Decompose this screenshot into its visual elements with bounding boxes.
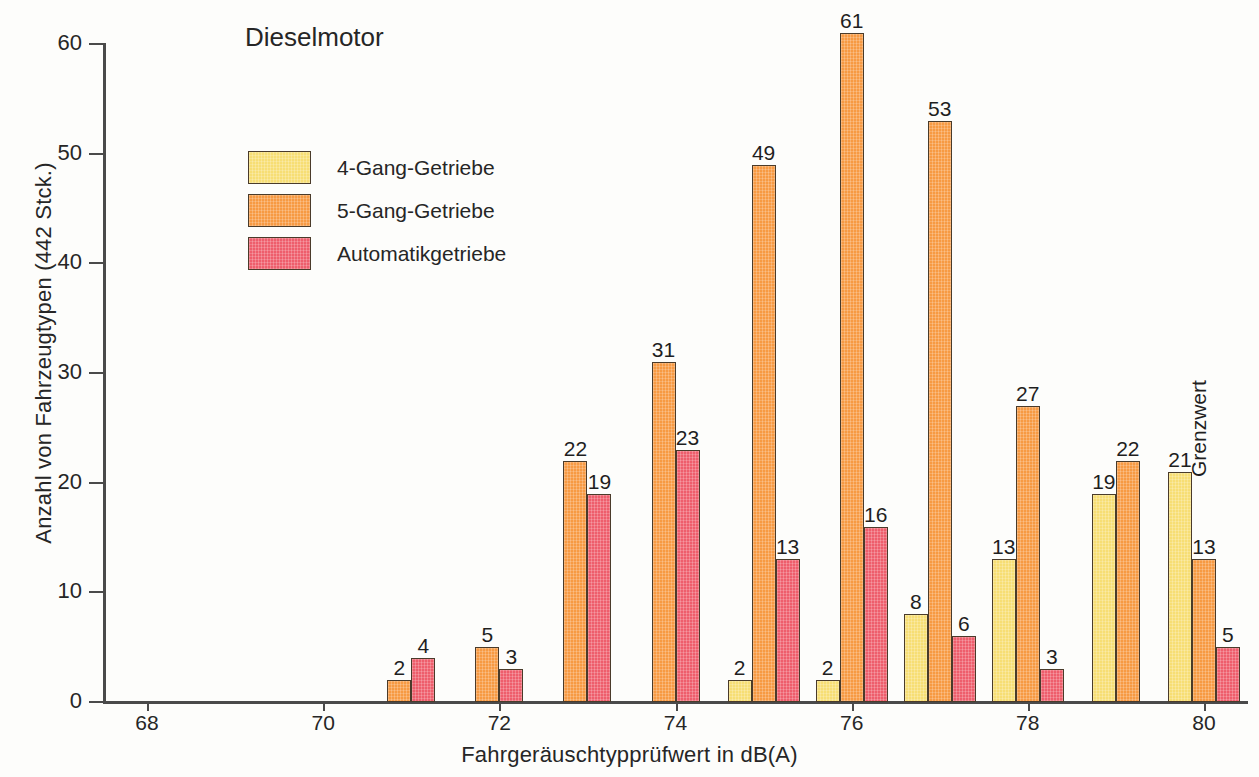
bar: 3 xyxy=(1040,669,1064,702)
bar: 2 xyxy=(387,680,411,702)
bar-value-label: 6 xyxy=(958,613,970,634)
bar: 61 xyxy=(840,33,864,702)
x-tick-label: 70 xyxy=(288,711,358,735)
y-tick: 50 xyxy=(89,153,103,155)
bar-value-label: 3 xyxy=(506,646,518,667)
bar: 8 xyxy=(904,614,928,702)
x-tick xyxy=(1204,701,1206,711)
bar-value-label: 13 xyxy=(776,536,799,557)
bar: 2 xyxy=(816,680,840,702)
bar-value-label: 2 xyxy=(393,657,405,678)
bar: 6 xyxy=(952,636,976,702)
x-tick xyxy=(852,701,854,711)
y-tick-label: 50 xyxy=(58,140,82,166)
bar: 13 xyxy=(992,559,1016,702)
bar: 4 xyxy=(411,658,435,702)
bar-value-label: 23 xyxy=(676,427,699,448)
bar: 22 xyxy=(1116,461,1140,702)
bar: 5 xyxy=(1216,647,1240,702)
x-tick xyxy=(499,701,501,711)
chart-page: Anzahl von Fahrzeugtypen (442 Stck.) Fah… xyxy=(0,0,1259,777)
bar-value-label: 13 xyxy=(992,536,1015,557)
x-tick-label: 78 xyxy=(993,711,1063,735)
x-tick-label: 74 xyxy=(641,711,711,735)
bar: 19 xyxy=(587,494,611,702)
plot-area: 0102030405060 68707274767880 24532219312… xyxy=(103,43,1248,701)
bar: 21 xyxy=(1168,472,1192,702)
bar-value-label: 31 xyxy=(652,339,675,360)
x-tick xyxy=(323,701,325,711)
x-tick-label: 68 xyxy=(112,711,182,735)
y-tick-label: 0 xyxy=(70,688,82,714)
y-tick-label: 30 xyxy=(58,359,82,385)
bar-value-label: 61 xyxy=(840,10,863,31)
bar-value-label: 3 xyxy=(1046,646,1058,667)
y-tick-label: 10 xyxy=(58,578,82,604)
bar: 5 xyxy=(475,647,499,702)
x-tick-label: 72 xyxy=(464,711,534,735)
bar: 19 xyxy=(1092,494,1116,702)
x-tick xyxy=(676,701,678,711)
y-axis-line xyxy=(103,43,106,702)
x-tick-label: 80 xyxy=(1169,711,1239,735)
y-tick-label: 20 xyxy=(58,469,82,495)
bar: 3 xyxy=(499,669,523,702)
bar-value-label: 19 xyxy=(1092,471,1115,492)
y-axis-title: Anzahl von Fahrzeugtypen (442 Stck.) xyxy=(31,93,57,613)
bar-value-label: 2 xyxy=(734,657,746,678)
bar-value-label: 53 xyxy=(928,98,951,119)
x-tick xyxy=(1028,701,1030,711)
x-tick xyxy=(147,701,149,711)
bar-value-label: 49 xyxy=(752,142,775,163)
bar-value-label: 19 xyxy=(588,471,611,492)
y-tick: 60 xyxy=(89,43,103,45)
y-tick: 40 xyxy=(89,262,103,264)
y-tick-label: 60 xyxy=(58,30,82,56)
bar: 53 xyxy=(928,121,952,702)
bar: 13 xyxy=(776,559,800,702)
y-tick: 30 xyxy=(89,372,103,374)
bar: 2 xyxy=(728,680,752,702)
y-tick: 10 xyxy=(89,591,103,593)
x-tick-label: 76 xyxy=(817,711,887,735)
bar-value-label: 8 xyxy=(910,591,922,612)
bar: 49 xyxy=(752,165,776,702)
bar-value-label: 16 xyxy=(864,504,887,525)
bar-value-label: 4 xyxy=(417,635,429,656)
grenzwert-annotation: Grenzwert xyxy=(1187,380,1211,477)
bar: 23 xyxy=(676,450,700,702)
y-tick: 20 xyxy=(89,482,103,484)
bar-value-label: 22 xyxy=(564,438,587,459)
bar: 22 xyxy=(563,461,587,702)
bar: 27 xyxy=(1016,406,1040,702)
y-tick-label: 40 xyxy=(58,249,82,275)
bar: 31 xyxy=(652,362,676,702)
bar: 16 xyxy=(864,527,888,702)
x-axis-title: Fahrgeräuschtypprüfwert in dB(A) xyxy=(0,742,1259,768)
y-tick: 0 xyxy=(89,701,103,703)
bar: 13 xyxy=(1192,559,1216,702)
bar-value-label: 5 xyxy=(482,624,494,645)
bar-value-label: 22 xyxy=(1116,438,1139,459)
bar-value-label: 5 xyxy=(1222,624,1234,645)
bar-value-label: 27 xyxy=(1016,383,1039,404)
bar-value-label: 2 xyxy=(822,657,834,678)
bar-value-label: 13 xyxy=(1192,536,1215,557)
